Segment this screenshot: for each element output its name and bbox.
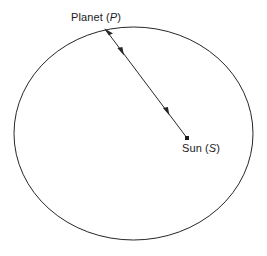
planet-label: Planet (P) (71, 11, 121, 23)
planet-label-suffix: ) (117, 11, 121, 23)
arrow-to-sun-lower-icon (163, 107, 170, 116)
sun-label-prefix: Sun ( (182, 142, 209, 154)
planet-label-prefix: Planet ( (71, 11, 110, 23)
radius-vector-line (106, 30, 188, 139)
sun-label-suffix: ) (216, 142, 220, 154)
sun-marker-dot (185, 136, 189, 140)
arrow-to-sun-upper-icon (117, 47, 124, 56)
orbit-ellipse (14, 27, 253, 240)
orbit-diagram-canvas (0, 0, 267, 256)
orbit-diagram: Planet (P) Sun (S) (0, 0, 267, 256)
sun-label: Sun (S) (182, 142, 220, 154)
